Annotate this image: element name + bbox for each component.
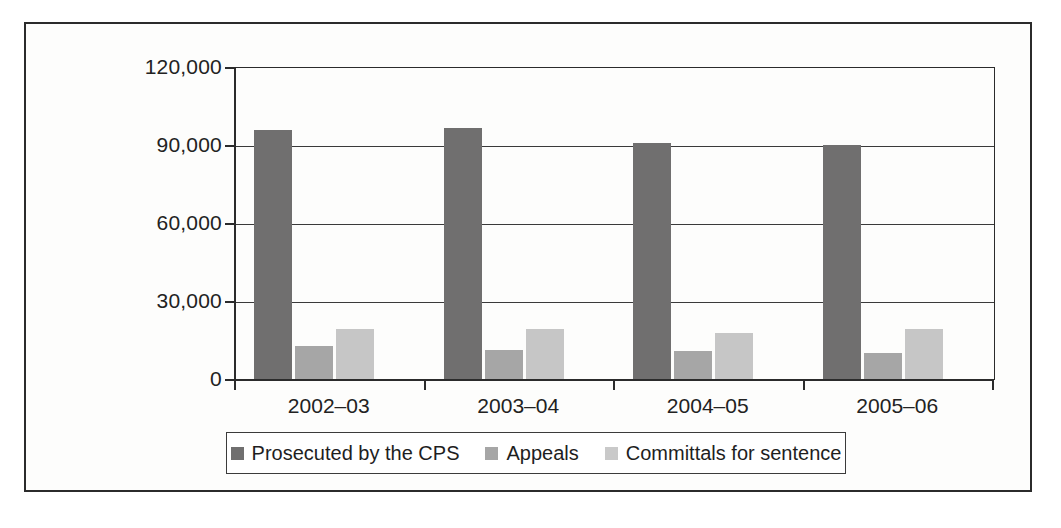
y-axis-tick-mark — [225, 223, 234, 225]
bar-group — [254, 68, 374, 380]
bar — [295, 346, 333, 380]
chart-legend: Prosecuted by the CPSAppealsCommittals f… — [226, 432, 846, 474]
x-axis-tick-mark — [613, 379, 615, 390]
legend-label: Committals for sentence — [626, 442, 842, 465]
bar-group — [444, 68, 564, 380]
x-axis-tick-mark — [424, 379, 426, 390]
bar — [633, 143, 671, 380]
plot-area — [234, 67, 995, 380]
y-axis-tick-label: 90,000 — [157, 133, 222, 157]
x-axis-tick-label: 2002–03 — [288, 394, 370, 418]
legend-label: Appeals — [506, 442, 578, 465]
y-axis-tick-label: 120,000 — [145, 55, 222, 79]
legend-label: Prosecuted by the CPS — [252, 442, 460, 465]
bar — [336, 329, 374, 380]
bar-group — [633, 68, 753, 380]
x-axis-tick-label: 2004–05 — [667, 394, 749, 418]
bar — [254, 130, 292, 380]
y-axis-tick-mark — [225, 145, 234, 147]
bar — [905, 329, 943, 380]
bar — [485, 350, 523, 380]
x-axis-tick-mark — [992, 379, 994, 390]
chart-figure-frame: 030,00060,00090,000120,000 2002–032003–0… — [24, 22, 1032, 492]
bar — [444, 128, 482, 380]
y-axis-tick-label: 0 — [210, 367, 222, 391]
bar — [864, 353, 902, 380]
y-axis-tick-mark — [225, 379, 234, 381]
y-axis-tick-mark — [225, 301, 234, 303]
x-axis-tick-mark — [803, 379, 805, 390]
y-axis-tick-label: 60,000 — [157, 211, 222, 235]
legend-swatch-icon — [231, 447, 244, 460]
legend-swatch-icon — [605, 447, 618, 460]
x-axis-tick-label: 2005–06 — [856, 394, 938, 418]
bar — [715, 333, 753, 380]
y-axis-tick-mark — [225, 67, 234, 69]
bar-group — [823, 68, 943, 380]
y-axis-tick-label: 30,000 — [157, 289, 222, 313]
legend-item: Prosecuted by the CPS — [231, 442, 460, 465]
bar — [526, 329, 564, 380]
legend-item: Appeals — [485, 442, 578, 465]
legend-item: Committals for sentence — [605, 442, 842, 465]
x-axis-tick-label: 2003–04 — [477, 394, 559, 418]
bar — [823, 145, 861, 380]
y-axis: 030,00060,00090,000120,000 — [122, 67, 222, 379]
bar — [674, 351, 712, 380]
legend-swatch-icon — [485, 447, 498, 460]
x-axis-tick-mark — [234, 379, 236, 390]
